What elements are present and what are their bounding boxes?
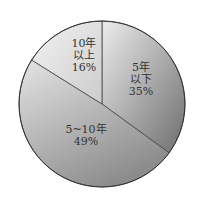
label-5-10-years: 5~10年 49% [60, 124, 112, 148]
pie-chart-graphic [0, 0, 197, 211]
label-5-years-below: 5年 以下 35% [121, 62, 161, 98]
pie-chart: 10年 以上 16% 5年 以下 35% 5~10年 49% [0, 0, 197, 211]
label-10-years-above: 10年 以上 16% [64, 38, 104, 74]
